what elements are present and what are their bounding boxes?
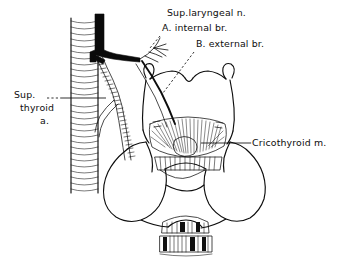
label-sup-thyroid-artery-line2: thyroid [20, 102, 54, 113]
label-cricothyroid-muscle: Cricothyroid m. [252, 137, 326, 148]
label-external-branch: B. external br. [196, 38, 264, 49]
label-sup-laryngeal-nerve: Sup.laryngeal n. [167, 7, 246, 18]
anatomical-figure: Sup.laryngeal n. A. internal br. B. exte… [0, 0, 349, 262]
label-internal-branch: A. internal br. [162, 22, 227, 33]
anatomy-diagram-canvas: Sup.laryngeal n. A. internal br. B. exte… [0, 0, 349, 262]
label-sup-thyroid-artery-line3: a. [40, 115, 49, 126]
label-sup-thyroid-artery-line1: Sup. [14, 89, 35, 100]
